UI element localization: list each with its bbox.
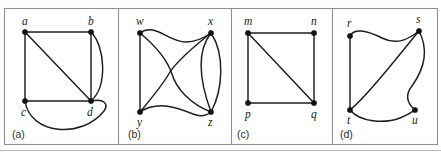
edge-t-s: [350, 31, 419, 110]
vertex-u: [412, 107, 417, 112]
vertex-n: [311, 30, 316, 35]
edge-m-q: [248, 33, 314, 103]
vertex-x: [208, 30, 213, 35]
edge-t-u: [350, 110, 415, 121]
edge-w-x: [140, 30, 211, 42]
vertex-b: [88, 29, 93, 34]
vertex-y: [137, 109, 142, 114]
vertex-label-a: a: [22, 15, 28, 27]
graphs-figure: abcd(a)wxyz(b)mnpq(c)rstu(d): [0, 0, 441, 154]
vertex-r: [347, 33, 352, 38]
vertex-t: [347, 107, 352, 112]
vertex-label-w: w: [136, 15, 144, 27]
vertex-label-x: x: [207, 15, 214, 27]
vertex-label-q: q: [311, 108, 317, 121]
panel-label-c: (c): [237, 128, 249, 140]
vertex-label-b: b: [88, 15, 94, 27]
vertex-a: [22, 29, 27, 34]
edge-a-d: [25, 32, 91, 101]
vertex-p: [245, 100, 250, 105]
panel-label-d: (d): [340, 128, 353, 140]
vertex-label-u: u: [412, 114, 418, 126]
vertex-label-z: z: [207, 116, 213, 128]
vertex-w: [137, 30, 142, 35]
vertex-s: [416, 28, 421, 33]
edge-x-z: [201, 33, 211, 112]
edge-r-s: [350, 31, 419, 41]
vertex-label-s: s: [416, 13, 421, 25]
figure-container: abcd(a)wxyz(b)mnpq(c)rstu(d): [0, 0, 441, 154]
vertex-label-t: t: [347, 114, 351, 126]
vertex-label-d: d: [87, 106, 93, 118]
panel-label-b: (b): [128, 128, 141, 140]
vertex-label-m: m: [244, 15, 252, 27]
edge-x-y: [140, 33, 211, 112]
panel-label-a: (a): [12, 128, 25, 140]
vertex-label-p: p: [244, 108, 251, 121]
vertex-d: [88, 98, 93, 103]
edge-b-d: [91, 32, 103, 101]
vertex-label-c: c: [21, 106, 26, 118]
vertex-label-r: r: [347, 17, 352, 29]
vertex-q: [311, 100, 316, 105]
edge-c-d: [25, 100, 106, 129]
panel-d: rstu(d): [340, 13, 424, 140]
edge-x-z: [211, 33, 221, 112]
vertex-z: [208, 109, 213, 114]
vertex-c: [22, 98, 27, 103]
vertex-label-n: n: [311, 15, 317, 27]
vertex-m: [245, 30, 250, 35]
panel-b: wxyz(b): [128, 15, 221, 140]
panel-c: mnpq(c): [237, 15, 317, 140]
panel-a: abcd(a): [12, 15, 106, 140]
